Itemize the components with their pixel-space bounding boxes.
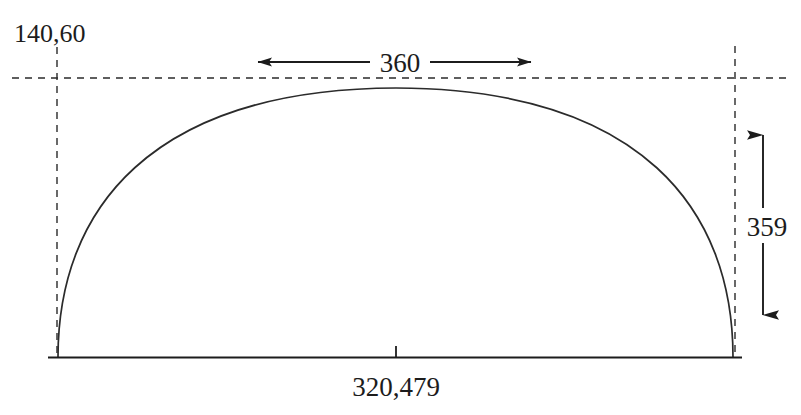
height-dimension-label: 359 (747, 212, 788, 242)
span-dimension-label: 360 (380, 48, 421, 78)
corner-coordinate-label: 140,60 (14, 19, 86, 48)
arch-profile-curve (58, 88, 733, 357)
technical-drawing-canvas: 140,60 360 359 320,479 (0, 0, 801, 415)
base-coordinate-label: 320,479 (352, 372, 440, 402)
arch-dimension-drawing: 140,60 360 359 320,479 (0, 0, 801, 415)
